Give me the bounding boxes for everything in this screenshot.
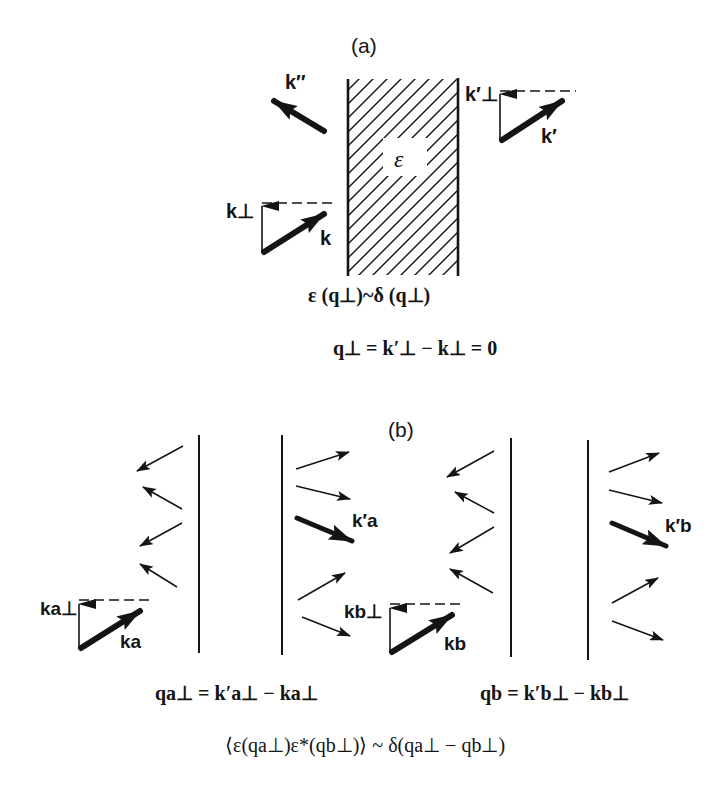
momentum-transfer-b: qb = k′b⊥ − kb⊥	[480, 682, 629, 705]
incident-wave-label: k	[320, 227, 332, 249]
incident-wave-vector: k k⊥	[226, 200, 337, 252]
panel-b: (b) k′a ka ka⊥	[40, 418, 692, 757]
incident-b-label: kb	[444, 633, 466, 654]
transmitted-perp-label: k′⊥	[465, 83, 498, 105]
transmitted-wave-label: k′	[541, 125, 557, 147]
incident-a-perp-label: ka⊥	[40, 598, 78, 619]
slab-a: k′a ka ka⊥	[40, 435, 378, 655]
spectrum-relation: ε (q⊥)~δ (q⊥)	[308, 284, 430, 307]
incident-b-perp-label: kb⊥	[344, 601, 383, 622]
correlation-relation: ⟨ε(qa⊥)ε*(qb⊥)⟩ ~ δ(qa⊥ − qb⊥)	[225, 734, 505, 757]
incident-a-label: ka	[120, 631, 142, 652]
incident-perp-label: k⊥	[226, 200, 254, 222]
figure-canvas: (a)	[0, 0, 715, 804]
reflected-wave-vector: k″	[274, 71, 324, 131]
panel-a-label: (a)	[351, 34, 377, 57]
transmitted-b-label: k′b	[665, 515, 692, 536]
transmitted-a-label: k′a	[352, 510, 378, 531]
momentum-conservation: q⊥ = k′⊥ − k⊥ = 0	[333, 337, 497, 360]
momentum-transfer-a: qa⊥ = k′a⊥ − ka⊥	[155, 682, 318, 705]
epsilon-symbol: ε	[394, 146, 404, 172]
panel-a: (a)	[226, 0, 576, 378]
panel-b-label: (b)	[388, 418, 414, 441]
slab-b: k′b kb kb⊥	[344, 438, 692, 660]
reflected-wave-label: k″	[285, 71, 306, 93]
transmitted-wave-vector: k′ k′⊥	[465, 83, 576, 147]
